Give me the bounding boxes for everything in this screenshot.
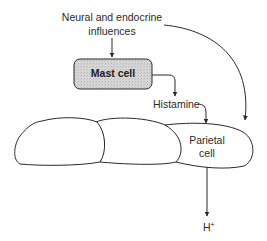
histamine-pathway-diagram: Neural and endocrine influences Mast cel… [0,0,267,241]
histamine-label: Histamine [153,98,200,110]
parietal-cell-label-line2: cell [199,147,215,159]
h-plus-superscript: + [211,221,215,228]
neural-endocrine-label-line1: Neural and endocrine [62,11,163,23]
h-plus-label: H+ [203,221,215,233]
neural-endocrine-label-line2: influences [88,25,135,37]
h-plus-base: H [203,221,211,233]
left-cell [15,118,105,166]
gastric-cells: Parietal cell [15,118,253,168]
mast-cell-node: Mast cell [74,59,152,89]
parietal-cell-label-line1: Parietal [189,134,225,146]
mast-cell-label: Mast cell [91,67,135,79]
arrow-mast-cell-to-histamine [152,75,175,96]
